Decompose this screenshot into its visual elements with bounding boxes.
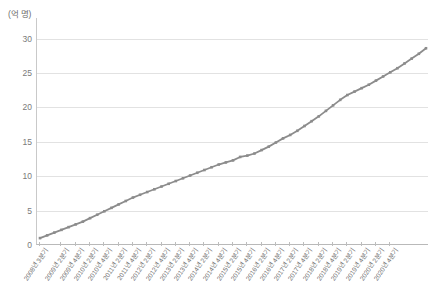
- x-tick-mark: [246, 242, 247, 246]
- x-tick-mark: [361, 242, 362, 246]
- data-point-marker: [89, 217, 92, 220]
- x-tick-mark: [189, 242, 190, 246]
- data-point-marker: [124, 200, 127, 203]
- data-point-marker: [232, 159, 235, 162]
- data-point-marker: [375, 79, 378, 82]
- y-tick-label: 20: [23, 102, 32, 112]
- series-line: [37, 18, 429, 245]
- x-tick-mark: [332, 242, 333, 246]
- data-point-marker: [303, 125, 306, 128]
- data-point-marker: [175, 180, 178, 183]
- data-point-marker: [167, 182, 170, 185]
- x-axis-labels: 2008년 3분기2009년 2분기2009년 4분기2010년 2분기2010…: [36, 246, 428, 306]
- data-point-marker: [146, 191, 149, 194]
- x-tick-mark: [60, 242, 61, 246]
- data-point-marker: [203, 169, 206, 172]
- data-point-marker: [410, 57, 413, 60]
- data-point-marker: [196, 171, 199, 174]
- data-point-marker: [67, 226, 70, 229]
- data-point-marker: [103, 210, 106, 213]
- data-point-marker: [339, 99, 342, 102]
- x-tick-mark: [146, 242, 147, 246]
- data-point-marker: [246, 154, 249, 157]
- data-point-marker: [332, 104, 335, 107]
- data-point-marker: [382, 75, 385, 78]
- data-point-marker: [217, 163, 220, 166]
- line-chart: (억 명) 051015202530 2008년 3분기2009년 2분기200…: [0, 0, 445, 306]
- data-point-marker: [260, 149, 263, 152]
- x-tick-mark: [346, 242, 347, 246]
- y-tick-label: 10: [23, 171, 32, 181]
- data-point-marker: [46, 234, 49, 237]
- y-tick-label: 0: [27, 240, 32, 250]
- x-tick-mark: [318, 242, 319, 246]
- x-tick-mark: [75, 242, 76, 246]
- data-point-marker: [368, 83, 371, 86]
- x-tick-mark: [161, 242, 162, 246]
- data-point-marker: [182, 177, 185, 180]
- data-point-marker: [253, 152, 256, 155]
- data-point-marker: [96, 213, 99, 216]
- x-tick-mark: [303, 242, 304, 246]
- data-point-marker: [396, 67, 399, 70]
- data-point-marker: [225, 161, 228, 164]
- x-tick-mark: [289, 242, 290, 246]
- data-point-marker: [267, 145, 270, 148]
- data-point-marker: [317, 115, 320, 118]
- data-point-marker: [189, 174, 192, 177]
- data-point-marker: [403, 62, 406, 65]
- data-point-marker: [346, 94, 349, 97]
- x-tick-mark: [118, 242, 119, 246]
- x-tick-mark: [275, 242, 276, 246]
- x-tick-mark: [218, 242, 219, 246]
- y-tick-label: 5: [27, 206, 32, 216]
- data-point-marker: [139, 193, 142, 196]
- data-point-marker: [353, 90, 356, 93]
- data-point-marker: [425, 47, 428, 50]
- data-point-marker: [296, 130, 299, 133]
- y-tick-label: 25: [23, 68, 32, 78]
- x-tick-mark: [89, 242, 90, 246]
- plot-area: 051015202530: [36, 18, 428, 245]
- x-tick-mark: [232, 242, 233, 246]
- data-point-marker: [74, 223, 77, 226]
- data-point-marker: [132, 196, 135, 199]
- data-point-marker: [289, 134, 292, 137]
- data-point-marker: [239, 156, 242, 159]
- data-point-marker: [275, 141, 278, 144]
- data-point-marker: [160, 185, 163, 188]
- data-point-marker: [389, 71, 392, 74]
- x-tick-mark: [132, 242, 133, 246]
- data-point-marker: [82, 220, 85, 223]
- data-point-marker: [310, 120, 313, 123]
- data-point-marker: [282, 137, 285, 140]
- x-tick-mark: [103, 242, 104, 246]
- data-point-marker: [110, 207, 113, 210]
- data-point-marker: [60, 229, 63, 232]
- y-tick-label: 30: [23, 34, 32, 44]
- data-point-marker: [210, 166, 213, 169]
- x-tick-mark: [175, 242, 176, 246]
- data-point-marker: [418, 52, 421, 55]
- data-point-marker: [360, 87, 363, 90]
- data-point-marker: [325, 110, 328, 113]
- x-tick-mark: [389, 242, 390, 246]
- x-tick-mark: [39, 242, 40, 246]
- y-tick-label: 15: [23, 137, 32, 147]
- x-tick-mark: [261, 242, 262, 246]
- data-point-marker: [153, 188, 156, 191]
- data-point-marker: [39, 237, 42, 240]
- data-point-marker: [117, 203, 120, 206]
- x-tick-mark: [375, 242, 376, 246]
- data-point-marker: [53, 231, 56, 234]
- x-tick-mark: [203, 242, 204, 246]
- y-axis-unit-label: (억 명): [8, 7, 31, 19]
